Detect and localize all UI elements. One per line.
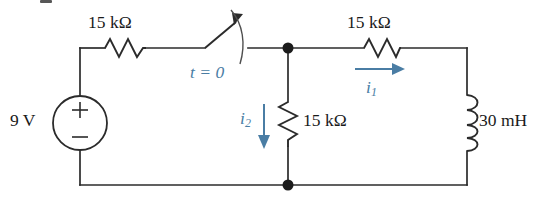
- voltage-source-value-label: 9 V: [10, 112, 35, 130]
- resistor-middle-value-label: 15 kΩ: [303, 112, 347, 130]
- resistor-left-value-label: 15 kΩ: [88, 14, 132, 32]
- node-dot-top: [283, 43, 294, 54]
- circuit-schematic-svg: [0, 0, 558, 201]
- node-dot-bottom: [283, 180, 294, 191]
- resistor-right-value-label: 15 kΩ: [347, 14, 391, 32]
- circuit-diagram-figure: 15 kΩ 15 kΩ 15 kΩ 30 mH 9 V t = 0 i1 i2: [0, 0, 558, 201]
- resistor-symbol-middle: [279, 102, 297, 147]
- switch-actuation-arc: [231, 10, 243, 64]
- current-arrow-i2-head: [258, 135, 270, 149]
- current-i2-subscript: 2: [245, 116, 251, 130]
- current-arrow-i1-head: [392, 63, 405, 75]
- inductor-value-label: 30 mH: [479, 112, 527, 130]
- current-i1-subscript: 1: [371, 85, 377, 99]
- current-label-i1: i1: [366, 79, 377, 98]
- current-label-i2: i2: [240, 110, 251, 129]
- resistor-symbol-right: [364, 39, 401, 57]
- resistor-symbol-left: [105, 39, 146, 57]
- switch-time-label: t = 0: [190, 64, 224, 82]
- inductor-symbol: [467, 95, 478, 151]
- switch-blade: [205, 22, 236, 48]
